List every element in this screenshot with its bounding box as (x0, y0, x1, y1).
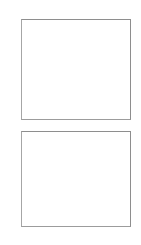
page-canvas (0, 0, 141, 245)
panel-bottom[interactable] (21, 131, 131, 227)
panel-bottom-body (22, 132, 130, 226)
panel-top-body (22, 20, 130, 119)
panel-top[interactable] (21, 19, 131, 120)
